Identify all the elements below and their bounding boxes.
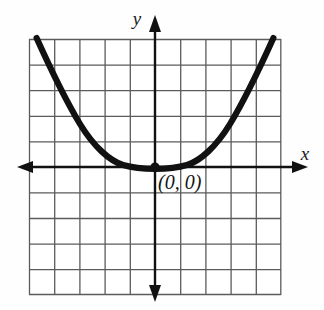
y-axis-label: y: [131, 8, 142, 29]
x-axis-label: x: [300, 143, 310, 164]
figure-container: y x (0, 0): [0, 0, 324, 310]
x-axis-arrow-left: [17, 161, 33, 173]
vertex-coordinate-label: (0, 0): [158, 171, 202, 194]
y-axis-arrow-up: [149, 15, 161, 32]
coordinate-plane-graph: y x (0, 0): [0, 0, 324, 310]
